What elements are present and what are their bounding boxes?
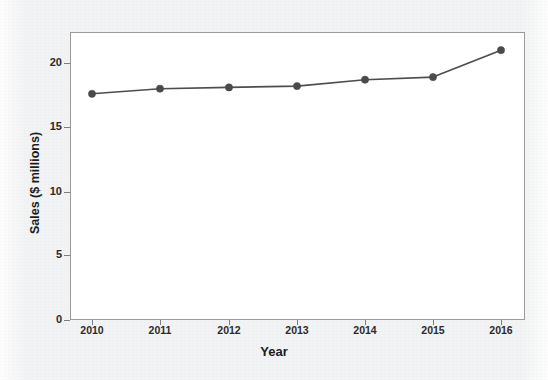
x-tick-label-2016: 2016 [476,325,526,336]
x-axis-title: Year [0,344,548,359]
data-point-2010 [88,90,95,97]
y-tick-label-15: 15 [50,121,62,132]
y-tick-label-5: 5 [56,249,62,260]
data-point-2011 [156,85,163,92]
y-tick-label-20: 20 [50,57,62,68]
data-point-2013 [293,83,300,90]
data-point-2012 [225,84,232,91]
data-point-2016 [497,47,504,54]
x-tick-label-2011: 2011 [135,325,185,336]
line-series-svg [71,33,524,319]
data-point-2014 [361,76,368,83]
x-tick-label-2015: 2015 [408,325,458,336]
y-tick-label-10: 10 [50,186,62,197]
data-point-2015 [429,74,436,81]
y-tick-mark-0 [64,320,70,321]
chart-figure: 20 15 10 5 0 Sales ($ millions) 2010 201… [0,0,548,380]
y-tick-label-0: 0 [56,314,62,325]
x-tick-label-2012: 2012 [204,325,254,336]
y-axis-title: Sales ($ millions) [28,103,42,263]
x-tick-label-2014: 2014 [340,325,390,336]
x-tick-label-2010: 2010 [67,325,117,336]
x-tick-label-2013: 2013 [272,325,322,336]
plot-area [70,32,525,320]
